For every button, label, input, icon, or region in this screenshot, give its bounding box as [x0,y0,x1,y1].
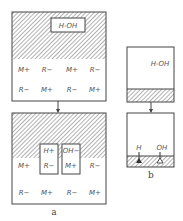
panel-a-top: H-OH M+ R− M+ R− R− M+ R− M+ [12,12,106,101]
ion-label: M+ [18,66,30,74]
ion-label: R− [67,86,78,94]
ion-label: M+ [41,189,53,197]
diagram: H-OH M+ R− M+ R− R− M+ R− M+ H+ R− OH− M… [0,0,183,221]
panel-b-bottom: H OH [127,113,174,167]
molecule-label: H-OH [151,60,170,68]
ion-label: R− [19,189,30,197]
ion-label: H+ [43,147,54,155]
molecule-label: H-OH [59,22,78,30]
ion-label: M+ [65,162,77,170]
ion-label: R− [44,162,55,170]
hatched-phase [12,113,106,158]
ion-label: M+ [66,66,78,74]
ion-label: R− [90,66,101,74]
ion-label: M+ [41,86,53,94]
ion-label: OH− [63,147,80,155]
ion-label: R− [19,86,30,94]
caption-b: b [148,170,154,180]
panel-b-top: H-OH [127,47,174,102]
ion-label: M+ [89,189,101,197]
hatched-layer [127,89,174,102]
arrow-a [56,101,60,113]
oh-label: OH [157,144,169,152]
ion-label: M+ [89,86,101,94]
caption-a: a [51,207,57,217]
ion-label: M+ [18,162,30,170]
ion-label: R− [90,162,101,170]
panel-a-bottom: H+ R− OH− M+ M+ R− R− M+ R− M+ [12,113,106,204]
arrow-b [149,102,153,113]
ion-label: R− [67,189,78,197]
hatched-layer [127,156,174,167]
h-label: H [136,144,142,152]
ion-label: R− [42,66,53,74]
